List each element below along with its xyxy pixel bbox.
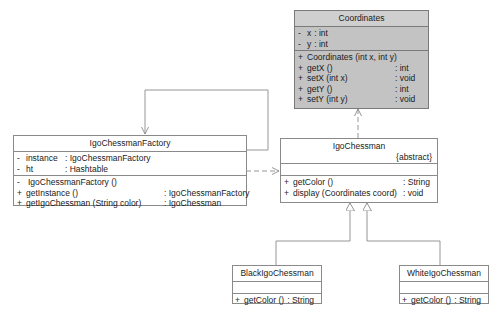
visibility: -	[17, 164, 26, 175]
operation-row: +getColor (): String	[284, 177, 434, 188]
class-name: IgoChessmanFactory	[14, 136, 246, 152]
operation-name: getIgoChessman (String color)	[26, 198, 160, 209]
operations-section: +getColor (): String	[400, 294, 488, 307]
operation-name: display (Coordinates coord)	[293, 188, 399, 199]
attribute-type: : int	[311, 39, 328, 50]
class-igochessman[interactable]: IgoChessman {abstract} +getColor (): Str…	[280, 138, 438, 203]
operations-section: +getColor (): String +display (Coordinat…	[281, 176, 437, 199]
operation-name: getColor ()	[293, 177, 399, 188]
operation-name: IgoChessmanFactory ()	[28, 177, 117, 188]
visibility: -	[298, 39, 307, 50]
return-type: : String	[399, 177, 430, 188]
operation-name: setY (int y)	[307, 94, 347, 105]
white-generalization-line	[367, 203, 440, 265]
operation-row: +getColor (): String	[402, 295, 485, 306]
attributes-section	[281, 164, 437, 176]
visibility: +	[298, 73, 307, 84]
operation-name: getX ()	[307, 63, 333, 74]
attribute-type: : IgoChessmanFactory	[63, 153, 151, 164]
operation-name: setX (int x)	[307, 73, 348, 84]
black-generalization-line	[276, 203, 350, 265]
operation-row: +getColor (): String	[235, 295, 318, 306]
return-type: : void	[391, 73, 425, 84]
operations-section: +Coordinates (int x, int y) +getX (): in…	[295, 51, 428, 106]
attributes-section: -x: int -y: int	[295, 27, 428, 51]
operation-row: +getY (): int	[298, 84, 425, 95]
class-name: WhiteIgoChessman	[400, 266, 488, 282]
attribute-row: -ht: Hashtable	[17, 164, 243, 175]
return-type: : IgoChessman	[160, 198, 221, 209]
visibility: +	[298, 84, 307, 95]
return-type	[421, 52, 425, 63]
attribute-row: -x: int	[298, 28, 425, 39]
operation-name: getColor ()	[411, 295, 451, 306]
operation-row: -IgoChessmanFactory ()	[17, 177, 243, 188]
class-name: Coordinates	[295, 11, 428, 27]
operation-name: getY ()	[307, 84, 332, 95]
attributes-section	[400, 282, 488, 294]
visibility: +	[284, 188, 293, 199]
class-white-igochessman[interactable]: WhiteIgoChessman +getColor (): String	[399, 265, 489, 304]
visibility: +	[17, 188, 26, 199]
attribute-row: -y: int	[298, 39, 425, 50]
class-black-igochessman[interactable]: BlackIgoChessman +getColor (): String	[232, 265, 322, 304]
operations-section: -IgoChessmanFactory () +getInstance (): …	[14, 176, 246, 210]
visibility: +	[298, 52, 307, 63]
return-type: : int	[391, 63, 425, 74]
return-type: : void	[399, 188, 423, 199]
visibility: +	[402, 295, 411, 306]
return-type: : IgoChessmanFactory	[160, 188, 250, 199]
return-type: : void	[391, 94, 425, 105]
operation-row: +setX (int x): void	[298, 73, 425, 84]
operation-row: +getX (): int	[298, 63, 425, 74]
class-name: BlackIgoChessman	[233, 266, 321, 282]
visibility: -	[298, 28, 307, 39]
class-coordinates[interactable]: Coordinates -x: int -y: int +Coordinates…	[294, 10, 429, 109]
attribute-type: : int	[311, 28, 328, 39]
operation-row: +setY (int y): void	[298, 94, 425, 105]
attribute-row: -instance: IgoChessmanFactory	[17, 153, 243, 164]
return-type: : int	[391, 84, 425, 95]
attributes-section: -instance: IgoChessmanFactory -ht: Hasht…	[14, 152, 246, 176]
operation-name: Coordinates (int x, int y)	[307, 52, 397, 63]
operation-row: +Coordinates (int x, int y)	[298, 52, 425, 63]
visibility: -	[17, 177, 28, 188]
class-igochessman-factory[interactable]: IgoChessmanFactory -instance: IgoChessma…	[13, 135, 247, 206]
attribute-name: instance	[26, 153, 63, 164]
operation-name: getColor ()	[244, 295, 284, 306]
operation-row: +getInstance (): IgoChessmanFactory	[17, 188, 243, 199]
visibility: +	[235, 295, 244, 306]
return-type: : String	[451, 295, 481, 306]
visibility: -	[17, 153, 26, 164]
attribute-name: ht	[26, 164, 63, 175]
attribute-type: : Hashtable	[63, 164, 108, 175]
attributes-section	[233, 282, 321, 294]
operation-row: +display (Coordinates coord): void	[284, 188, 434, 199]
operations-section: +getColor (): String	[233, 294, 321, 307]
class-header: IgoChessman {abstract}	[281, 139, 437, 164]
operation-row: +getIgoChessman (String color): IgoChess…	[17, 198, 243, 209]
return-type: : String	[284, 295, 314, 306]
visibility: +	[298, 94, 307, 105]
visibility: +	[284, 177, 293, 188]
visibility: +	[17, 198, 26, 209]
visibility: +	[298, 63, 307, 74]
operation-name: getInstance ()	[26, 188, 160, 199]
abstract-stereotype: {abstract}	[283, 152, 435, 163]
